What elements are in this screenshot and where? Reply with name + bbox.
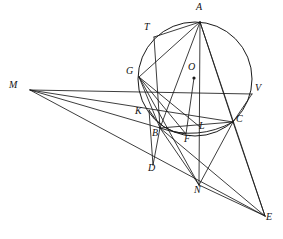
point-label-f: F: [184, 134, 190, 144]
segment-c-n: [199, 122, 233, 185]
segment-n-e: [199, 185, 265, 216]
vertex-dots-layer: [192, 76, 195, 79]
segment-c-e: [233, 122, 265, 216]
point-label-n: N: [194, 185, 201, 195]
point-label-g: G: [126, 66, 133, 76]
point-label-v: V: [255, 83, 261, 93]
point-label-t: T: [144, 22, 150, 32]
point-label-d: D: [148, 163, 155, 173]
segment-t-b: [154, 37, 160, 128]
point-label-e: E: [266, 212, 272, 222]
geometry-figure: ATGOVKBLCFDNME: [0, 0, 283, 239]
point-label-l: L: [199, 121, 205, 131]
point-label-b: B: [152, 128, 158, 138]
segment-b-e: [160, 128, 265, 216]
point-label-o: O: [188, 62, 195, 72]
segment-a-t: [154, 22, 200, 37]
segment-m-t-v: [30, 90, 252, 94]
point-label-k: K: [135, 106, 142, 116]
point-label-m: M: [9, 80, 17, 90]
segments-layer: [30, 22, 265, 216]
point-label-c: C: [236, 114, 243, 124]
point-label-a: A: [196, 2, 202, 12]
center-point-dot: [192, 76, 195, 79]
segment-b-n: [160, 128, 199, 185]
segment-a-b: [160, 22, 200, 128]
